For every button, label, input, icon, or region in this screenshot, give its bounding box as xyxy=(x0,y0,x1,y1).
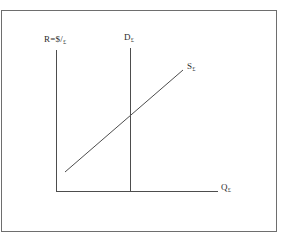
supply-curve-label-subscript: £ xyxy=(192,65,195,72)
supply-curve-label: S£ xyxy=(187,62,196,71)
x-axis-label-subscript: £ xyxy=(228,186,231,193)
y-axis-label-text: R=$/ xyxy=(44,34,63,44)
x-axis-label: Q£ xyxy=(221,183,231,192)
y-axis-label: R=$/£ xyxy=(44,35,66,44)
supply-curve-line xyxy=(65,70,183,172)
demand-curve-label-text: D xyxy=(124,32,131,42)
demand-curve-label-subscript: £ xyxy=(131,36,134,43)
x-axis-label-text: Q xyxy=(221,182,228,192)
y-axis-label-subscript: £ xyxy=(63,38,66,45)
demand-curve-label: D£ xyxy=(124,33,134,42)
figure-canvas: R=$/£ D£ S£ Q£ xyxy=(0,0,288,247)
